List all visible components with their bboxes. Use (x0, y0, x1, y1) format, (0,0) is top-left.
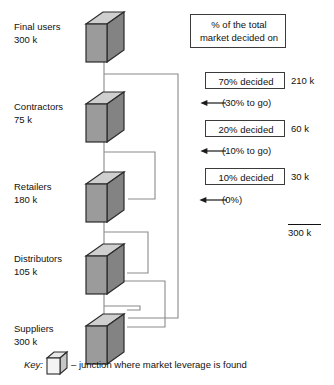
step-box-10: 10% decided (205, 168, 285, 185)
key-description: – junction where market leverage is foun… (71, 359, 247, 370)
chain-label-text: Final users (14, 21, 60, 32)
chain-label-text: Distributors (14, 253, 62, 264)
cube-final-users (86, 12, 124, 62)
step-box-70-label: 70% decided (206, 76, 286, 88)
chain-value-text: 75 k (14, 114, 32, 125)
total-amount: 300 k (288, 227, 311, 238)
step-transition-0: (0%) (222, 194, 242, 205)
step-box-10-label: 10% decided (206, 172, 286, 184)
chain-value-text: 180 k (14, 194, 37, 205)
chain-value-suppliers: 300 k (14, 336, 37, 349)
chain-value-text: 300 k (14, 336, 37, 347)
key-cube-icon (47, 352, 67, 374)
total-rule (288, 224, 321, 225)
chain-label-contractors: Contractors (14, 101, 63, 114)
chain-label-suppliers: Suppliers (14, 323, 54, 336)
diagram-canvas: Final users 300 k Contractors 75 k Retai… (0, 0, 334, 385)
step-box-20: 20% decided (205, 120, 285, 137)
chain-label-text: Contractors (14, 101, 63, 112)
chain-value-distributors: 105 k (14, 266, 37, 279)
feedback-retailers-suppliers (118, 281, 165, 327)
chain-value-contractors: 75 k (14, 114, 32, 127)
chain-value-final-users: 300 k (14, 34, 37, 47)
cube-suppliers (86, 314, 124, 364)
step-transition-30-to-go: (30% to go) (222, 97, 271, 108)
cube-contractors (86, 92, 124, 142)
title-box-line2: market decided on (191, 32, 287, 44)
step-box-20-label: 20% decided (206, 124, 286, 136)
step-amount-60k: 60 k (291, 123, 309, 136)
chain-label-text: Suppliers (14, 323, 54, 334)
step-box-70: 70% decided (205, 72, 285, 89)
title-box: % of the total market decided on (190, 14, 286, 48)
chain-label-retailers: Retailers (14, 181, 52, 194)
chain-label-text: Retailers (14, 181, 52, 192)
step-transition-10-to-go: (10% to go) (222, 145, 271, 156)
chain-label-final-users: Final users (14, 21, 60, 34)
step-amount-30k: 30 k (291, 171, 309, 184)
feedback-distributors-suppliers (104, 306, 140, 310)
key-label: Key: (24, 359, 43, 370)
chain-value-text: 105 k (14, 266, 37, 277)
step-amount-210k: 210 k (291, 75, 314, 88)
chain-value-text: 300 k (14, 34, 37, 45)
chain-label-distributors: Distributors (14, 253, 62, 266)
cube-distributors (86, 244, 124, 294)
cube-retailers (86, 172, 124, 222)
title-box-line1: % of the total (191, 19, 287, 31)
chain-value-retailers: 180 k (14, 194, 37, 207)
